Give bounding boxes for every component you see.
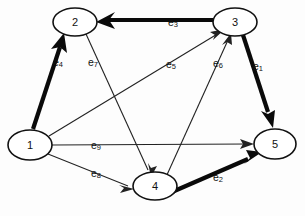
edge-e8-line — [48, 154, 128, 186]
edge-label-e8: e8 — [91, 167, 101, 180]
edge-e5-line — [49, 33, 219, 136]
edge-e1 — [243, 35, 275, 128]
edge-e9-line — [52, 144, 248, 145]
node-2[interactable]: 2 — [53, 8, 97, 36]
node-3[interactable]: 3 — [213, 8, 257, 36]
node-2-label: 2 — [72, 16, 78, 28]
edge-e1-arrowhead — [261, 110, 275, 128]
edge-e2-line — [172, 159, 248, 192]
edge-e9 — [52, 139, 254, 149]
edge-e6 — [166, 33, 232, 177]
edge-label-e1: e1 — [253, 60, 263, 73]
edge-e8-arrowhead — [119, 185, 134, 193]
edge-e4 — [33, 33, 67, 129]
node-5-label: 5 — [272, 138, 278, 150]
edge-label-e2: e2 — [213, 171, 223, 184]
node-1[interactable]: 1 — [8, 130, 52, 160]
edge-e5 — [49, 29, 225, 136]
node-4-label: 4 — [152, 180, 158, 192]
node-5[interactable]: 5 — [254, 129, 296, 159]
edge-label-e4: e4 — [53, 56, 63, 69]
node-1-label: 1 — [27, 139, 33, 151]
graph-canvas: 1 2 3 4 5 e1 e2 e3 e4 — [0, 0, 305, 216]
edge-e1-line — [243, 35, 268, 112]
edge-e7 — [86, 34, 157, 177]
graph-diagram: 1 2 3 4 5 e1 e2 e3 e4 — [0, 0, 305, 216]
edge-label-e6: e6 — [213, 57, 223, 70]
edge-label-e9: e9 — [91, 139, 101, 152]
node-4[interactable]: 4 — [133, 172, 177, 200]
node-3-label: 3 — [232, 16, 238, 28]
edge-e3 — [96, 12, 213, 29]
